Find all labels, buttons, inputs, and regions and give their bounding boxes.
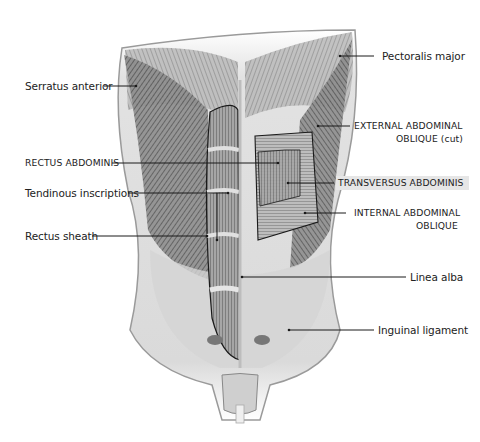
label-serratus-anterior: Serratus anterior (25, 80, 113, 92)
label-external-oblique-line1: EXTERNAL ABDOMINAL (354, 120, 463, 132)
label-transversus-abdominis: TRANSVERSUS ABDOMINIS (336, 176, 469, 190)
label-inguinal-ligament: Inguinal ligament (378, 324, 468, 336)
label-external-oblique-line2: OBLIQUE (cut) (396, 133, 463, 145)
label-internal-oblique-line2: OBLIQUE (416, 220, 458, 232)
label-pectoralis-major: Pectoralis major (382, 50, 465, 62)
torso-illustration (0, 0, 480, 442)
label-linea-alba: Linea alba (410, 271, 463, 283)
anatomy-figure: Serratus anterior Pectoralis major EXTER… (0, 0, 480, 442)
label-internal-oblique-line1: INTERNAL ABDOMINAL (354, 207, 460, 219)
label-rectus-abdominis: RECTUS ABDOMINIS (25, 157, 119, 169)
label-rectus-sheath: Rectus sheath (25, 230, 98, 242)
label-tendinous-inscriptions: Tendinous inscriptions (25, 187, 139, 199)
